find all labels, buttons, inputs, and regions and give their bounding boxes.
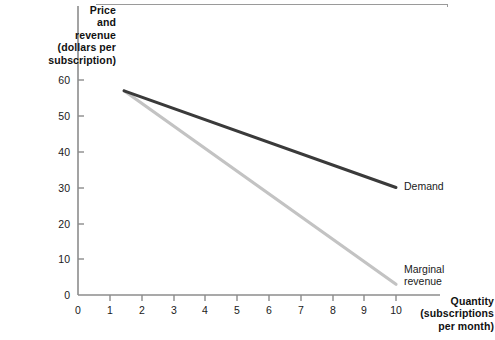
y-axis-ticks bbox=[78, 80, 84, 259]
demand-curve bbox=[124, 91, 396, 188]
y-axis-title: Priceandrevenue(dollars persubscription) bbox=[8, 4, 116, 66]
y-tick-label-50: 50 bbox=[46, 110, 70, 122]
x-tick-label-2: 2 bbox=[132, 304, 152, 316]
x-tick-label-4: 4 bbox=[195, 304, 215, 316]
y-tick-label-20: 20 bbox=[46, 218, 70, 230]
y-tick-label-60: 60 bbox=[46, 74, 70, 86]
y-tick-label-30: 30 bbox=[46, 182, 70, 194]
y-tick-label-10: 10 bbox=[46, 253, 70, 265]
y-tick-label-40: 40 bbox=[46, 146, 70, 158]
x-tick-label-0: 0 bbox=[68, 304, 88, 316]
chart-container: Priceandrevenue(dollars persubscription)… bbox=[0, 0, 495, 340]
x-axis-title: Quantity(subscriptionsper month) bbox=[404, 295, 494, 332]
demand-curve-label: Demand bbox=[404, 180, 444, 192]
x-axis-title-text: Quantity(subscriptionsper month) bbox=[420, 295, 494, 332]
x-tick-label-7: 7 bbox=[291, 304, 311, 316]
y-axis-title-text: Priceandrevenue(dollars persubscription) bbox=[48, 4, 116, 66]
x-axis-ticks bbox=[110, 295, 396, 301]
x-tick-label-6: 6 bbox=[259, 304, 279, 316]
x-tick-label-9: 9 bbox=[354, 304, 374, 316]
x-tick-label-5: 5 bbox=[227, 304, 247, 316]
x-tick-label-10: 10 bbox=[386, 304, 406, 316]
y-tick-label-0: 0 bbox=[46, 289, 70, 301]
marginal-revenue-curve-label: Marginalrevenue bbox=[404, 263, 444, 287]
x-tick-label-8: 8 bbox=[323, 304, 343, 316]
x-tick-label-1: 1 bbox=[100, 304, 120, 316]
marginal-revenue-curve bbox=[124, 91, 396, 284]
x-tick-label-3: 3 bbox=[164, 304, 184, 316]
